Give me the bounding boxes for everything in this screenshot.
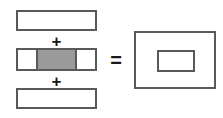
middle-bar-shape [16, 48, 97, 71]
composition-diagram: + + = [0, 0, 223, 118]
result-inner-shape [157, 50, 195, 72]
top-bar-shape [16, 10, 97, 31]
middle-bar-left-cap [18, 50, 38, 69]
middle-bar-right-cap [77, 50, 95, 69]
bottom-bar-shape [16, 88, 97, 109]
equals-operator: = [104, 50, 128, 70]
middle-bar-center-fill [38, 50, 77, 69]
result-outer-shape [134, 31, 216, 89]
